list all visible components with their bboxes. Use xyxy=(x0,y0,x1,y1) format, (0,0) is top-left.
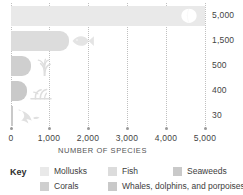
bar-fish xyxy=(11,31,69,51)
species-bar-chart: 5,000 1,500 500 xyxy=(0,0,243,160)
legend-item-seaweeds: Seaweeds xyxy=(173,166,227,176)
fish-icon xyxy=(70,31,96,51)
x-tick-label-1000: 1,000 xyxy=(38,133,60,143)
legend-swatch-fish xyxy=(108,167,117,176)
legend-label-seaweeds: Seaweeds xyxy=(187,166,227,176)
value-label-mollusks: 5,000 xyxy=(212,10,234,20)
tick-dot-3000 xyxy=(126,127,129,130)
legend-label-mollusks: Mollusks xyxy=(54,166,87,176)
x-axis-title: NUMBER OF SPECIES xyxy=(0,146,205,155)
legend-swatch-mollusks xyxy=(40,167,49,176)
bar-whales xyxy=(11,106,13,126)
legend-item-whales: Whales, dolphins, and porpoises xyxy=(108,181,243,191)
x-tick-label-3000: 3,000 xyxy=(116,133,138,143)
value-label-fish: 1,500 xyxy=(212,35,234,45)
legend-label-corals: Corals xyxy=(54,181,79,191)
coral-icon xyxy=(32,56,58,76)
tick-dot-2000 xyxy=(87,127,90,130)
x-tick-label-2000: 2,000 xyxy=(77,133,99,143)
bar-seaweeds xyxy=(11,81,27,101)
legend-swatch-whales xyxy=(108,182,117,191)
tick-dot-4000 xyxy=(165,127,168,130)
legend-title: Key xyxy=(10,167,27,177)
gridline-5000 xyxy=(205,3,207,128)
seaweed-icon xyxy=(28,81,54,101)
shell-icon xyxy=(176,6,202,26)
value-label-corals: 500 xyxy=(212,60,227,70)
x-tick-label-0: 0 xyxy=(9,133,14,143)
legend-swatch-corals xyxy=(40,182,49,191)
tick-dot-5000 xyxy=(204,127,207,130)
tick-dot-0 xyxy=(10,127,13,130)
legend-item-fish: Fish xyxy=(108,166,138,176)
value-label-whales: 30 xyxy=(212,110,222,120)
chart-legend: Key Mollusks Fish Seaweeds Corals Whales… xyxy=(0,164,243,195)
bar-corals xyxy=(11,56,31,76)
legend-swatch-seaweeds xyxy=(173,167,182,176)
x-tick-label-4000: 4,000 xyxy=(155,133,177,143)
legend-item-corals: Corals xyxy=(40,181,79,191)
x-tick-label-5000: 5,000 xyxy=(194,133,216,143)
value-label-seaweeds: 400 xyxy=(212,85,227,95)
legend-item-mollusks: Mollusks xyxy=(40,166,87,176)
legend-label-whales: Whales, dolphins, and porpoises xyxy=(122,181,243,191)
legend-label-fish: Fish xyxy=(122,166,138,176)
dolphin-icon xyxy=(16,106,42,126)
tick-dot-1000 xyxy=(48,127,51,130)
